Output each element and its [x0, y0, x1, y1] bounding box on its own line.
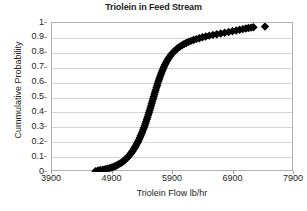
y-tick-label: 0.4	[31, 107, 44, 116]
y-tick-mark	[44, 156, 47, 157]
x-tick-label: 6900	[222, 173, 242, 183]
y-tick-label: 0.7	[31, 62, 44, 71]
y-tick-mark	[44, 67, 47, 68]
x-tick-mark	[172, 171, 173, 174]
y-tick-mark	[44, 97, 47, 98]
y-tick-label: 0.2	[31, 137, 44, 146]
x-tick-mark	[112, 171, 113, 174]
x-tick-mark	[51, 171, 52, 174]
y-tick-label: 0.1	[31, 152, 44, 161]
x-tick-label: 3900	[41, 173, 61, 183]
y-tick-label: 0.9	[31, 32, 44, 41]
y-tick-mark	[44, 52, 47, 53]
y-tick-mark	[44, 171, 47, 172]
y-tick-mark	[44, 22, 47, 23]
x-axis-label: Triolein Flow lb/hr	[51, 188, 293, 198]
chart-title: Triolein in Feed Stream	[0, 2, 307, 12]
chart-container: Triolein in Feed Stream Cummulative Prob…	[0, 0, 307, 211]
x-tick-label: 5900	[162, 173, 182, 183]
y-tick-mark	[44, 141, 47, 142]
y-tick-mark	[44, 37, 47, 38]
data-series-markers	[52, 23, 294, 172]
data-point-marker	[261, 23, 269, 31]
plot-area	[51, 22, 293, 171]
y-tick-mark	[44, 126, 47, 127]
y-tick-mark	[44, 111, 47, 112]
x-tick-mark	[233, 171, 234, 174]
y-tick-label: 0.6	[31, 77, 44, 86]
y-tick-mark	[44, 82, 47, 83]
x-tick-label: 7900	[283, 173, 303, 183]
y-tick-label: 0.3	[31, 122, 44, 131]
y-tick-label: 0.8	[31, 47, 44, 56]
x-tick-mark	[293, 171, 294, 174]
y-tick-label: 0.5	[31, 92, 44, 101]
x-tick-label: 4900	[101, 173, 121, 183]
y-axis-tick-labels: 00.10.20.30.40.50.60.70.80.91	[0, 14, 47, 179]
x-axis-tick-labels: 39004900590069007900	[0, 173, 307, 187]
